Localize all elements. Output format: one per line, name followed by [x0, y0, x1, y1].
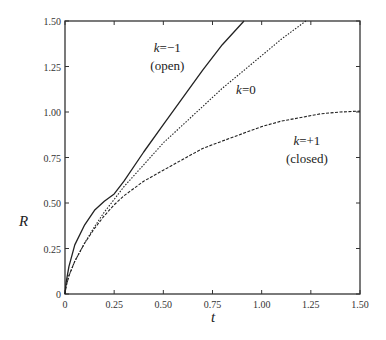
y-axis-label: R	[18, 213, 28, 229]
x-tick-label: 0.50	[155, 299, 173, 310]
y-tick-label: 1.25	[44, 62, 62, 73]
y-tick-label: 1.50	[44, 16, 62, 27]
y-tick-label: 0.50	[44, 198, 62, 209]
annotation-label: k=+1	[293, 133, 320, 148]
y-tick-label: 1.00	[44, 107, 62, 118]
y-tick-label: 0.25	[44, 244, 62, 255]
x-tick-label: 1.50	[351, 299, 369, 310]
x-tick-label: 1.00	[253, 299, 271, 310]
annotation-label: k=−1	[154, 40, 181, 55]
annotation-label: k=0	[236, 82, 256, 97]
annotation-sublabel: (closed)	[286, 151, 328, 166]
y-tick-label: 0	[56, 289, 61, 300]
annotations: k=−1(open)k=0k=+1(closed)	[150, 40, 328, 166]
x-tick-label: 0.25	[105, 299, 123, 310]
x-tick-label: 1.25	[302, 299, 320, 310]
x-axis-label: t	[211, 309, 216, 325]
annotation-sublabel: (open)	[150, 58, 184, 73]
chart: 00.250.500.751.001.251.5000.250.500.751.…	[0, 0, 386, 340]
x-tick-label: 0	[63, 299, 68, 310]
y-tick-label: 0.75	[44, 153, 62, 164]
